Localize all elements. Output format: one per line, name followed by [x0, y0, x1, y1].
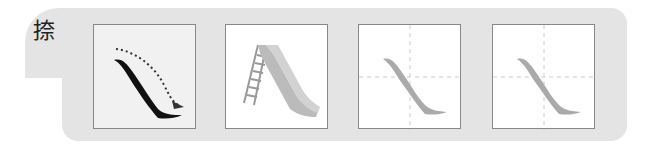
slide-icon: [226, 25, 329, 130]
trace-stroke-grid-icon: [493, 25, 596, 130]
slide-illustration-box: [225, 24, 328, 129]
character-label: 捺: [33, 18, 55, 44]
trace-grid-box-1: [358, 24, 461, 129]
na-stroke-with-arrow-icon: [94, 25, 197, 130]
trace-stroke-grid-icon: [359, 25, 462, 130]
trace-grid-box-2: [492, 24, 595, 129]
stroke-direction-box: [93, 24, 196, 129]
